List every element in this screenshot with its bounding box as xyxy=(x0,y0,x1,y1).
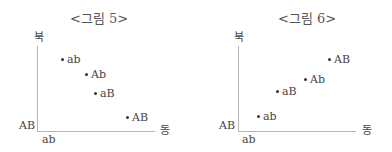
origin-left-label: AB xyxy=(19,120,35,132)
point-label: aB xyxy=(100,87,115,100)
data-point: ab xyxy=(61,54,81,66)
x-axis-label: 동 xyxy=(362,125,372,137)
data-point: ab xyxy=(257,111,277,123)
point-marker-icon xyxy=(257,115,260,118)
figure-title: <그림 5> xyxy=(70,8,128,27)
data-point: AB xyxy=(126,112,148,124)
point-label: aB xyxy=(282,85,297,98)
figure-5: <그림 5> 북 동 AB ab ab Ab aB AB xyxy=(0,0,196,152)
point-label: ab xyxy=(263,110,277,123)
point-marker-icon xyxy=(126,116,129,119)
y-axis-label: 북 xyxy=(234,32,244,44)
figure-title: <그림 6> xyxy=(278,8,336,27)
point-marker-icon xyxy=(85,73,88,76)
y-axis xyxy=(37,46,38,132)
point-label: Ab xyxy=(310,73,325,86)
data-point: aB xyxy=(276,86,297,98)
origin-left-label: AB xyxy=(219,120,235,132)
point-marker-icon xyxy=(328,58,331,61)
point-marker-icon xyxy=(61,58,64,61)
origin-bottom-label: ab xyxy=(42,134,56,146)
x-axis-label: 동 xyxy=(160,125,170,137)
point-label: Ab xyxy=(91,68,106,81)
point-label: AB xyxy=(334,53,350,66)
data-point: Ab xyxy=(85,69,106,81)
origin-bottom-label: ab xyxy=(242,134,256,146)
figure-6: <그림 6> 북 동 AB ab AB Ab aB ab xyxy=(196,0,392,152)
point-label: ab xyxy=(67,53,81,66)
x-axis xyxy=(238,131,356,132)
point-marker-icon xyxy=(276,90,279,93)
point-marker-icon xyxy=(94,92,97,95)
data-point: AB xyxy=(328,54,350,66)
y-axis xyxy=(238,46,239,132)
x-axis xyxy=(37,131,155,132)
point-marker-icon xyxy=(304,78,307,81)
point-label: AB xyxy=(132,111,148,124)
data-point: Ab xyxy=(304,74,325,86)
y-axis-label: 북 xyxy=(34,32,44,44)
data-point: aB xyxy=(94,88,115,100)
